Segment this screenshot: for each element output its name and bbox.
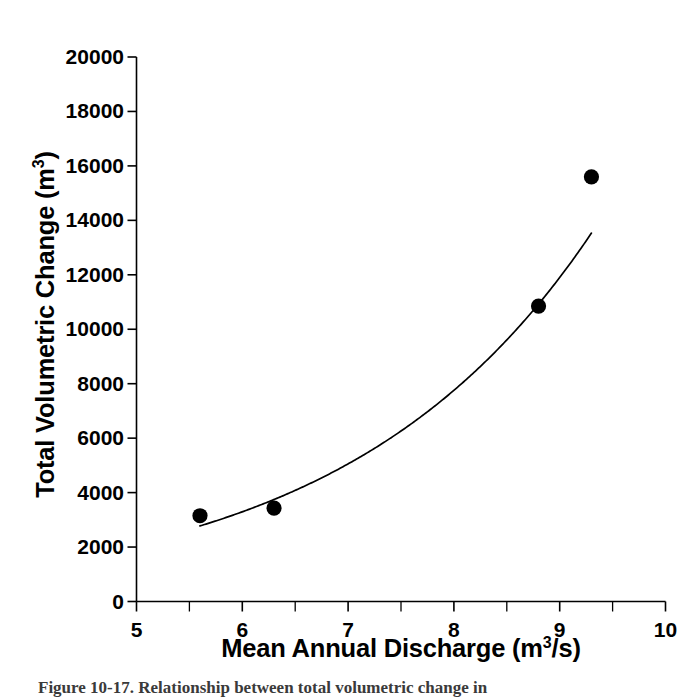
figure-caption: Figure 10-17. Relationship between total…: [38, 678, 658, 697]
y-axis-title: Total Volumetric Change (m3): [31, 65, 60, 585]
x-axis-tick-labels: 5678910: [0, 0, 696, 697]
x-axis-title-tail: /s): [552, 634, 581, 662]
y-axis-title-main: Total Volumetric Change (m: [31, 168, 59, 498]
x-axis-title: Mean Annual Discharge (m3/s): [136, 634, 666, 663]
x-axis-title-main: Mean Annual Discharge (m: [221, 634, 543, 662]
y-axis-title-superscript: 3: [30, 159, 47, 168]
x-axis-title-superscript: 3: [543, 634, 552, 651]
y-axis-title-tail: ): [31, 151, 59, 159]
figure-panel: 0200040006000800010000120001400016000180…: [0, 0, 696, 697]
